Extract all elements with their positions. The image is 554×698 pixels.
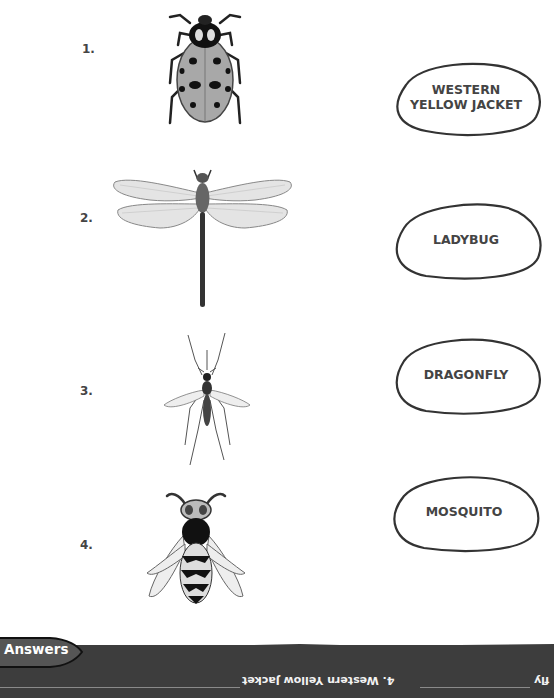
label-oval-western-yellow-jacket[interactable]: WESTERN YELLOW JACKET [386,55,546,140]
label-line-2: YELLOW JACKET [410,97,522,112]
label-line-1: WESTERN [432,82,500,97]
answer-rule [0,687,240,688]
label-text: LADYBUG [433,233,499,247]
label-text: DRAGONFLY [424,368,509,382]
label-text: MOSQUITO [426,505,503,519]
label-text: WESTERN YELLOW JACKET [410,83,522,112]
yellow-jacket-icon [145,488,250,608]
item-number-1: 1. [82,42,95,56]
answer-text-partial: fly [534,674,549,687]
item-number-4: 4. [80,538,93,552]
item-number-2: 2. [80,211,93,225]
label-oval-ladybug[interactable]: LADYBUG [386,198,546,283]
dragonfly-icon [110,168,295,313]
item-number-3: 3. [80,384,93,398]
mosquito-icon [160,330,255,470]
answer-text-4: 4. Western Yellow Jacket [242,674,395,687]
ladybug-icon [160,5,250,130]
label-oval-dragonfly[interactable]: DRAGONFLY [386,333,546,418]
answer-rule [420,687,530,688]
answers-tab-label: Answers [4,641,68,657]
label-oval-mosquito[interactable]: MOSQUITO [384,470,544,555]
